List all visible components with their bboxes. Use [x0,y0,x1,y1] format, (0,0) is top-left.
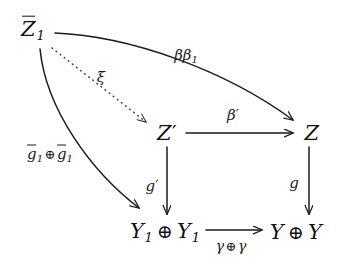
xi-glyph: ξ [97,68,105,86]
oplus-icon: ⊕ [157,219,173,241]
node-y1-right: Y [177,219,191,243]
node-y-right: Y [308,220,322,244]
node-zbar1-subscript: 1 [36,27,44,42]
oplus-icon: ⊕ [288,220,304,242]
oplus-icon: ⊕ [226,239,237,254]
edge-label-xi: ξ [97,70,105,85]
node-z: Z [305,123,320,144]
gbar-glyph: g [57,147,67,162]
edge-label-beta-prime: β′ [227,108,239,123]
beta-glyph: β [174,46,183,64]
beta-glyph: β [227,106,236,124]
node-zprime: Z′ [157,123,177,144]
node-zprime-prime: ′ [172,121,177,145]
gbar-glyph: g [27,147,37,162]
g-glyph: g [146,177,156,195]
gamma-glyph: γ [238,238,246,254]
oplus-icon: ⊕ [45,147,56,162]
node-y-left: Y [270,220,284,244]
node-zbar1: Z1 [21,19,45,42]
gamma-glyph: γ [216,238,224,254]
edge-label-gamma-oplus-gamma: γ⊕γ [216,239,247,253]
edge-label-g-prime: g′ [146,179,159,194]
node-y1-oplus-y1: Y1⊕Y1 [130,221,200,244]
node-y-oplus-y: Y⊕Y [270,222,322,243]
arrow-zbar1-to-y1y1 [40,49,139,208]
node-y1-left: Y [130,219,144,243]
edge-label-gbar1-oplus-gbar1: g1⊕g1 [27,147,73,164]
node-z-symbol: Z [305,121,320,145]
g-glyph: g [289,174,299,192]
edge-label-beta-beta1: ββ1 [174,48,198,65]
commutative-diagram: Z1 Z′ Z Y1⊕Y1 Y⊕Y ββ1 ξ β′ g1⊕g1 g′ g γ⊕… [0,0,355,267]
node-zbar1-symbol: Z [21,19,36,40]
node-zprime-symbol: Z [157,121,172,145]
edge-label-g: g [289,176,299,191]
